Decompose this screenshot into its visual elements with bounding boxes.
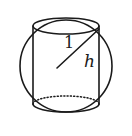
cylinder-bottom-back-arc: [33, 96, 99, 104]
height-label: h: [84, 53, 95, 70]
geometry-figure: 1 h: [0, 0, 132, 136]
radius-label: 1: [64, 35, 74, 51]
figure-canvas: [0, 0, 132, 136]
